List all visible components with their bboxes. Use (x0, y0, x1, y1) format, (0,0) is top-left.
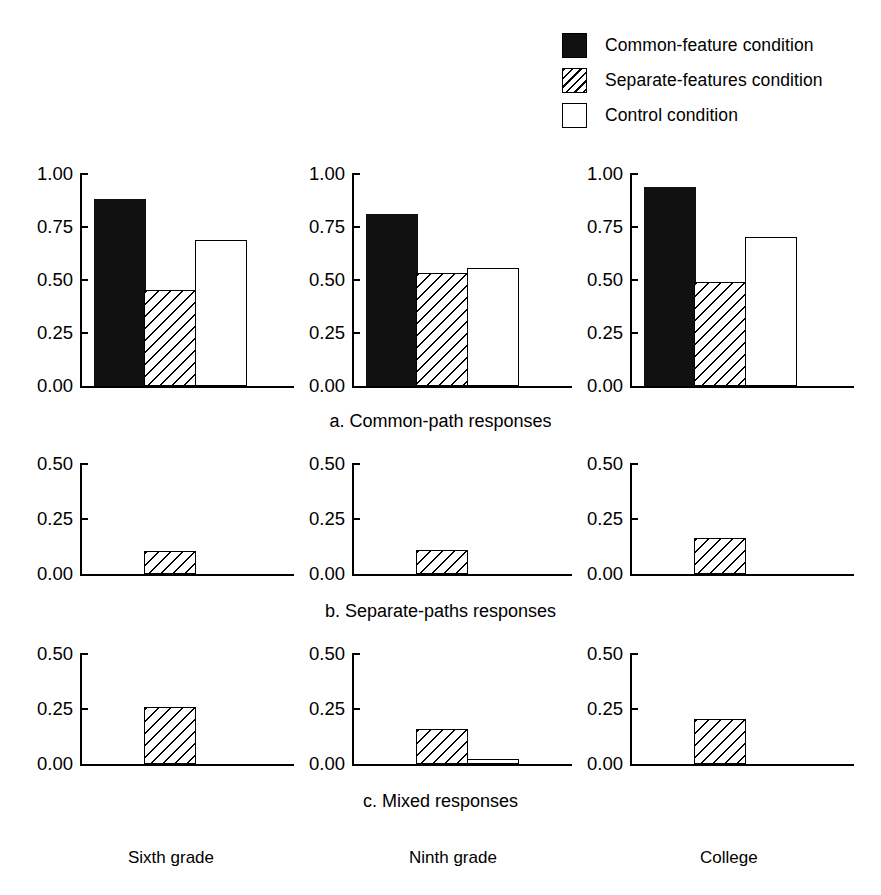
y-axis-tick-label: 0.50 (37, 269, 80, 291)
y-axis-tick-label: 0.50 (37, 643, 80, 665)
y-axis-tick-mark (80, 279, 88, 281)
y-axis-tick-label: 0.50 (587, 269, 630, 291)
y-axis-tick-mark (352, 332, 360, 334)
bar-control (467, 759, 519, 765)
legend-item-separate-features: Separate-features condition (562, 63, 872, 98)
y-axis-tick-label: 0.75 (309, 216, 352, 238)
y-axis-tick-mark (630, 332, 638, 334)
chart-panel-a-ninth-grade: 0.000.250.500.751.00 (294, 160, 572, 410)
panel-caption-c: c. Mixed responses (0, 791, 881, 812)
y-axis-tick-label: 0.75 (37, 216, 80, 238)
bar-common-feature (644, 187, 696, 386)
chart-panel-a-college: 0.000.250.500.751.00 (572, 160, 857, 410)
chart-panel-c-college: 0.000.250.50 (572, 640, 857, 792)
chart-panel-a-sixth-grade: 0.000.250.500.751.00 (22, 160, 294, 410)
x-axis-line (80, 386, 294, 388)
column-label-sixth-grade: Sixth grade (128, 848, 214, 868)
bar-group (94, 654, 245, 764)
x-axis-line (352, 386, 572, 388)
y-axis-tick-label: 0.00 (587, 753, 630, 775)
bar-control (467, 268, 519, 386)
y-axis-tick-label: 1.00 (309, 163, 352, 185)
panel-row-common-path: 0.000.250.500.751.00 0.000.250.500.751.0… (0, 160, 881, 410)
bar-group (644, 464, 795, 574)
column-label-college: College (700, 848, 758, 868)
panel-caption-a: a. Common-path responses (0, 411, 881, 432)
bar-group (644, 654, 795, 764)
y-axis-tick-mark (80, 463, 88, 465)
column-label-ninth-grade: Ninth grade (409, 848, 497, 868)
y-axis-tick-label: 0.00 (309, 563, 352, 585)
legend-item-label: Control condition (605, 105, 738, 126)
bar-separate-features (144, 551, 196, 574)
bar-group (94, 464, 245, 574)
y-axis-tick-mark (352, 173, 360, 175)
y-axis-tick-label: 0.00 (37, 375, 80, 397)
panel-caption-b: b. Separate-paths responses (0, 601, 881, 622)
y-axis-tick-label: 0.25 (309, 508, 352, 530)
chart-panel-b-college: 0.000.250.50 (572, 450, 857, 602)
bar-separate-features (694, 282, 746, 386)
legend: Common-feature condition Separate-featur… (562, 28, 872, 133)
bar-group (366, 174, 517, 386)
y-axis-tick-label: 0.25 (37, 508, 80, 530)
y-axis-tick-label: 0.50 (309, 269, 352, 291)
y-axis-tick-mark (352, 518, 360, 520)
x-axis-line (352, 764, 572, 766)
y-axis-tick-label: 0.00 (309, 375, 352, 397)
hatched-square-icon (562, 68, 587, 93)
x-axis-line (80, 574, 294, 576)
y-axis-tick-mark (80, 173, 88, 175)
bar-separate-features (416, 729, 468, 764)
solid-square-icon (562, 33, 587, 58)
y-axis-tick-label: 0.50 (309, 643, 352, 665)
y-axis-tick-label: 1.00 (37, 163, 80, 185)
y-axis-tick-mark (352, 653, 360, 655)
y-axis-tick-label: 0.00 (587, 375, 630, 397)
bar-group (644, 174, 795, 386)
y-axis-tick-label: 0.00 (37, 753, 80, 775)
y-axis-tick-mark (80, 332, 88, 334)
x-axis-line (630, 574, 854, 576)
chart-panel-b-ninth-grade: 0.000.250.50 (294, 450, 572, 602)
y-axis-tick-label: 0.25 (587, 698, 630, 720)
column-labels: Sixth grade Ninth grade College (0, 848, 881, 878)
y-axis-tick-label: 0.50 (587, 453, 630, 475)
bar-separate-features (416, 273, 468, 386)
x-axis-line (630, 386, 854, 388)
bar-group (366, 654, 517, 764)
y-axis-tick-mark (630, 279, 638, 281)
y-axis-tick-label: 0.75 (587, 216, 630, 238)
bar-separate-features (694, 538, 746, 574)
bar-separate-features (144, 707, 196, 764)
open-square-icon (562, 103, 587, 128)
x-axis-line (630, 764, 854, 766)
y-axis-tick-label: 0.50 (309, 453, 352, 475)
bar-common-feature (94, 199, 146, 386)
y-axis-tick-label: 1.00 (587, 163, 630, 185)
panel-row-separate-paths: 0.000.250.50 0.000.250.50 0.000.250.50 (0, 450, 881, 602)
legend-item-control: Control condition (562, 98, 872, 133)
y-axis-tick-label: 0.25 (37, 698, 80, 720)
y-axis-tick-mark (630, 518, 638, 520)
bar-separate-features (694, 719, 746, 764)
legend-item-label: Separate-features condition (605, 70, 823, 91)
chart-panel-b-sixth-grade: 0.000.250.50 (22, 450, 294, 602)
bar-common-feature (366, 214, 418, 386)
y-axis-tick-label: 0.25 (37, 322, 80, 344)
y-axis-tick-label: 0.00 (587, 563, 630, 585)
y-axis-tick-mark (80, 226, 88, 228)
y-axis-tick-mark (630, 708, 638, 710)
x-axis-line (352, 574, 572, 576)
y-axis-tick-label: 0.50 (37, 453, 80, 475)
y-axis-tick-label: 0.00 (37, 563, 80, 585)
y-axis-tick-mark (630, 463, 638, 465)
bar-group (94, 174, 245, 386)
x-axis-line (80, 764, 294, 766)
panel-row-mixed: 0.000.250.50 0.000.250.50 0.000.250.50 (0, 640, 881, 792)
y-axis-tick-mark (80, 708, 88, 710)
y-axis-tick-label: 0.25 (309, 322, 352, 344)
y-axis-tick-mark (630, 226, 638, 228)
legend-item-label: Common-feature condition (605, 35, 814, 56)
bar-separate-features (144, 290, 196, 386)
